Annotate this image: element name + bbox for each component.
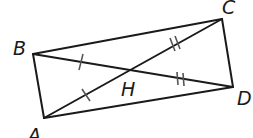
tick-hd-2: [183, 73, 184, 86]
segment-bc: [33, 19, 222, 54]
tick-ha: [82, 89, 90, 101]
diagram-canvas: B A C D H: [0, 0, 253, 138]
segment-ab: [33, 54, 44, 118]
label-a: A: [26, 124, 41, 138]
label-d: D: [237, 87, 252, 109]
label-b: B: [13, 37, 26, 59]
tick-hd-1: [177, 72, 178, 85]
label-h: H: [121, 78, 135, 100]
label-c: C: [222, 0, 236, 18]
geometry-diagram: B A C D H: [0, 0, 253, 138]
segment-cd: [222, 19, 233, 87]
